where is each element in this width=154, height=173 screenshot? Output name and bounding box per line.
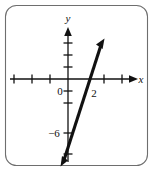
y-axis-label: y [65,12,71,24]
coordinate-plane-graph: x y 0 2 −6 [0,0,154,173]
y-intercept-label: −6 [48,127,60,139]
x-axis-label: x [138,73,144,85]
x-intercept-label: 2 [91,87,97,99]
origin-label: 0 [57,85,63,97]
figure-container: x y 0 2 −6 [0,0,154,173]
figure-border [6,6,148,166]
